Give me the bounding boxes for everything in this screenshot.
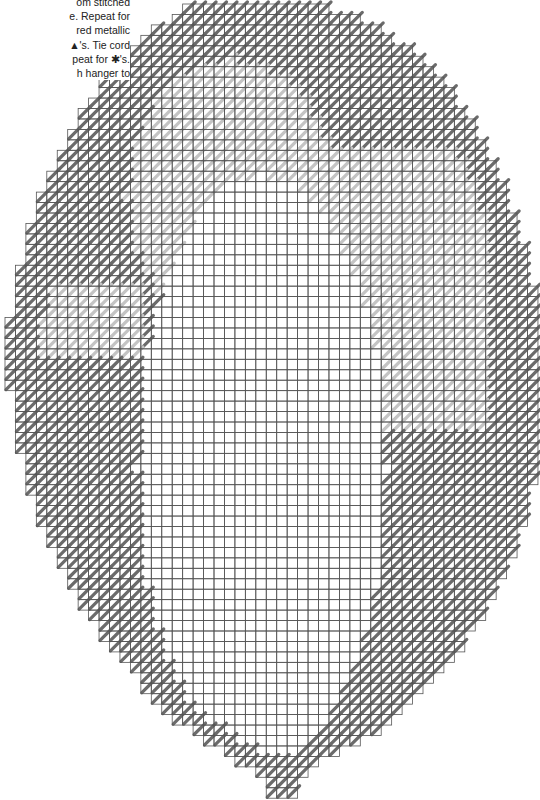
stitch-layer [6, 2, 540, 797]
instructions-text: om stitched e. Repeat for red metallic ▲… [0, 0, 130, 80]
instruction-line: om stitched [0, 0, 130, 9]
instruction-line: h hanger to [0, 66, 130, 80]
instruction-line: peat for ✱'s. [0, 52, 130, 66]
instruction-line: ▲'s. Tie cord [0, 38, 130, 52]
instruction-line: red metallic [0, 23, 130, 37]
instruction-line: e. Repeat for [0, 9, 130, 23]
stitch-chart-grid [0, 0, 540, 800]
